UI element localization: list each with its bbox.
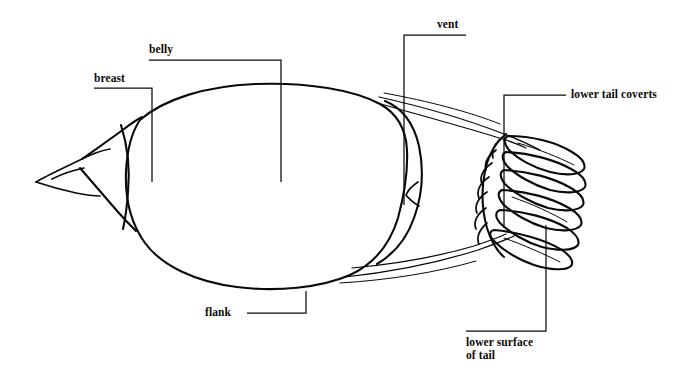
rump-outline [377, 101, 422, 264]
leader-flank [247, 291, 306, 313]
wing-lower-edge-outer [345, 235, 516, 277]
label-lower-tail-coverts: lower tail coverts [571, 88, 657, 101]
bill-lower-edge [36, 182, 100, 196]
head-outline-upper [82, 117, 142, 159]
label-belly: belly [149, 43, 173, 56]
leader-lines [94, 35, 566, 331]
wing-upper-edge-outer [379, 97, 540, 150]
label-flank: flank [205, 306, 231, 319]
bird-drawing [36, 84, 586, 289]
vent-notch [406, 182, 419, 206]
wing-lower-edge-hair [340, 261, 476, 283]
bill-upper-edge [36, 149, 110, 182]
wing-upper-edge-hair [384, 93, 500, 124]
leader-vent [404, 35, 466, 205]
bill-tip-fold [52, 168, 84, 179]
label-lower-surface-of-tail: lower surface of tail [466, 336, 533, 361]
body-outline [126, 84, 407, 289]
anatomy-figure: breast belly vent lower tail coverts fla… [0, 0, 686, 380]
tail-feather-upper-2 [503, 152, 586, 192]
leader-belly [149, 60, 281, 182]
bird-diagram-svg [0, 0, 686, 380]
label-breast: breast [94, 72, 125, 85]
label-vent: vent [437, 18, 458, 31]
